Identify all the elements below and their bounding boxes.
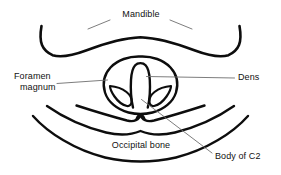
mandible-leader-right: [170, 20, 192, 29]
label-dens: Dens: [238, 72, 280, 83]
occipital-arc-middle: [47, 106, 234, 135]
dens-leader: [147, 77, 235, 79]
label-foramen-magnum-line1: Foramen: [14, 71, 76, 82]
label-mandible: Mandible: [112, 9, 170, 20]
mandible-leader-left: [88, 20, 110, 29]
label-body-of-c2: Body of C2: [215, 151, 279, 162]
anatomical-diagram: Mandible Foramen magnum Dens Occipital b…: [0, 0, 281, 175]
foramen-magnum-outline: [104, 56, 177, 114]
mandible-arch: [41, 26, 241, 56]
label-foramen-magnum-line2: magnum: [20, 82, 82, 93]
dens: [131, 63, 150, 107]
label-occipital-bone: Occipital bone: [105, 140, 177, 151]
